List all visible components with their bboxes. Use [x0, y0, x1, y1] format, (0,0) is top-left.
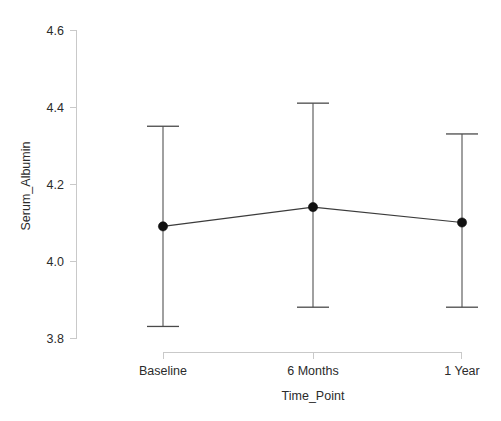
data-point-marker-0 — [158, 222, 167, 231]
x-axis-title: Time_Point — [282, 389, 345, 403]
data-point-marker-1 — [308, 203, 317, 212]
y-tick-label-0: 4.6 — [47, 24, 64, 38]
y-tick-label-3: 4.0 — [47, 255, 64, 269]
y-axis-title: Serum_Albumin — [19, 141, 33, 230]
y-tick-label-2: 4.2 — [47, 178, 64, 192]
x-tick-label-1: 6 Months — [287, 364, 338, 378]
chart-container: 4.6 4.4 4.2 4.0 3.8 Serum_Albumin Baseli… — [0, 0, 501, 421]
serum-albumin-errorbar-plot: 4.6 4.4 4.2 4.0 3.8 Serum_Albumin Baseli… — [0, 0, 501, 421]
plot-background — [0, 0, 501, 421]
x-tick-label-2: 1 Year — [444, 364, 479, 378]
data-point-marker-2 — [457, 218, 466, 227]
y-tick-label-4: 3.8 — [47, 332, 64, 346]
x-tick-label-0: Baseline — [139, 364, 187, 378]
y-tick-label-1: 4.4 — [47, 101, 64, 115]
